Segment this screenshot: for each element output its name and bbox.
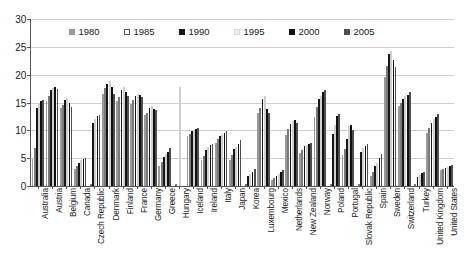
legend-item: 1985 — [124, 26, 154, 37]
legend-swatch — [234, 29, 240, 35]
bar-group — [73, 19, 87, 186]
bar-group — [186, 19, 200, 186]
bar — [240, 140, 242, 186]
x-axis-tick-mark — [193, 186, 194, 189]
bar — [85, 158, 87, 186]
x-axis-tick-mark — [165, 186, 166, 189]
legend-label: 1985 — [133, 26, 154, 37]
legend-item: 2005 — [344, 26, 374, 37]
plot-area — [31, 19, 454, 186]
bar-group — [412, 19, 426, 186]
legend-label: 2005 — [353, 26, 374, 37]
legend-label: 2000 — [298, 26, 319, 37]
legend-item: 1995 — [234, 26, 264, 37]
x-axis-tick: Norway — [313, 188, 327, 276]
bar-group — [397, 19, 411, 186]
x-axis-tick: Italy — [214, 188, 228, 276]
x-axis-tick: Iceland — [186, 188, 200, 276]
x-axis-tick: Slovak Republic — [355, 188, 369, 276]
legend-label: 1990 — [188, 26, 209, 37]
y-axis-tick-label: 0 — [2, 181, 26, 192]
x-axis-tick-mark — [249, 186, 250, 189]
x-axis-tick: Poland — [327, 188, 341, 276]
x-axis-tick-mark — [52, 186, 53, 189]
legend-swatch — [124, 29, 130, 35]
legend-swatch — [344, 29, 350, 35]
bar-group — [87, 19, 101, 186]
x-axis-tick-mark — [376, 186, 377, 189]
bar-group — [355, 19, 369, 186]
x-axis-tick: Portugal — [341, 188, 355, 276]
bar-group — [59, 19, 73, 186]
x-axis-tick: Ireland — [200, 188, 214, 276]
bar-group — [31, 19, 45, 186]
bar — [437, 114, 439, 186]
x-axis-tick: New Zealand — [299, 188, 313, 276]
x-axis-tick-mark — [94, 186, 95, 189]
x-axis-tick: France — [130, 188, 144, 276]
x-axis-tick: Turkey — [412, 188, 426, 276]
bar-group — [440, 19, 454, 186]
bar-group — [257, 19, 271, 186]
x-axis-tick: Korea — [242, 188, 256, 276]
bar — [296, 123, 298, 186]
legend-label: 1980 — [78, 26, 99, 37]
bar — [127, 96, 129, 186]
bar — [409, 92, 411, 186]
bar-group — [144, 19, 158, 186]
x-axis-tick-mark — [320, 186, 321, 189]
bar — [71, 107, 73, 186]
bar-group — [101, 19, 115, 186]
x-axis-tick: Netherlands — [285, 188, 299, 276]
x-axis-tick-mark — [264, 186, 265, 189]
x-axis-tick-mark — [334, 186, 335, 189]
bar-group — [341, 19, 355, 186]
x-axis-tick: Germany — [144, 188, 158, 276]
x-axis-tick: Czech Republic — [87, 188, 101, 276]
x-axis-tick-mark — [362, 186, 363, 189]
bar-group — [228, 19, 242, 186]
x-axis-tick: Luxembourg — [257, 188, 271, 276]
bar — [169, 148, 171, 186]
bar-group — [172, 19, 186, 186]
bar — [42, 100, 44, 186]
bar — [226, 131, 228, 186]
x-axis-tick-mark — [123, 186, 124, 189]
legend-swatch — [289, 29, 295, 35]
y-axis-tick-label: 10 — [2, 125, 26, 136]
x-axis-tick: Austria — [45, 188, 59, 276]
y-axis-tick-label: 20 — [2, 70, 26, 81]
y-axis-tick-label: 15 — [2, 98, 26, 109]
x-axis-tick-mark — [66, 186, 67, 189]
bar-group — [426, 19, 440, 186]
bar — [423, 172, 425, 186]
x-axis-tick-mark — [278, 186, 279, 189]
x-axis-tick-mark — [109, 186, 110, 189]
x-axis-tick-mark — [38, 186, 39, 189]
bar-group — [271, 19, 285, 186]
x-axis-tick: Hungary — [172, 188, 186, 276]
y-axis-tick-label: 25 — [2, 42, 26, 53]
legend-item: 1990 — [179, 26, 209, 37]
bar — [113, 94, 115, 186]
bar-group — [383, 19, 397, 186]
x-axis-tick: Japan — [228, 188, 242, 276]
x-axis-tick-mark — [447, 186, 448, 189]
bar — [99, 115, 101, 186]
x-axis-tick-mark — [235, 186, 236, 189]
bar-group — [158, 19, 172, 186]
bar-chart: 051015202530 AustraliaAustriaBelgiumCana… — [0, 0, 464, 277]
bar — [179, 87, 181, 186]
x-axis: AustraliaAustriaBelgiumCanadaCzech Repub… — [31, 188, 454, 276]
bar — [395, 67, 397, 186]
bar — [254, 169, 256, 186]
x-axis-tick-mark — [306, 186, 307, 189]
x-axis-tick-mark — [151, 186, 152, 189]
x-axis-tick-mark — [404, 186, 405, 189]
bar-group — [327, 19, 341, 186]
bar — [310, 143, 312, 186]
bar-group — [313, 19, 327, 186]
bar-group — [242, 19, 256, 186]
bar — [282, 170, 284, 186]
x-axis-tick: United Kingdom — [426, 188, 440, 276]
